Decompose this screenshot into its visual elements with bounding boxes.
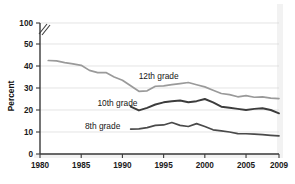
line-chart: 01020304050100 1980198519901995200020052… [0, 0, 295, 184]
y-tick-label-0: 0 [28, 150, 33, 159]
y-tick-label-10: 10 [24, 128, 34, 137]
series-label-10th-grade: 10th grade [97, 98, 137, 108]
x-tick-label-1995: 1995 [155, 161, 174, 170]
y-tick-label-100: 100 [19, 19, 33, 28]
y-axis-title: Percent [6, 80, 16, 111]
y-tick-label-40: 40 [24, 62, 34, 71]
y-tick-label-20: 20 [24, 106, 34, 115]
x-tick-label-1990: 1990 [113, 161, 132, 170]
series-label-8th-grade: 8th grade [85, 121, 121, 131]
x-tick-label-1985: 1985 [72, 161, 91, 170]
chart-figure: 01020304050100 1980198519901995200020052… [0, 0, 295, 184]
x-tick-label-2005: 2005 [237, 161, 256, 170]
x-tick-label-2000: 2000 [196, 161, 215, 170]
x-tick-label-1980: 1980 [31, 161, 50, 170]
x-tick-label-2009: 2009 [270, 161, 289, 170]
y-tick-label-50: 50 [24, 40, 34, 49]
series-label-12th-grade: 12th grade [139, 71, 179, 81]
y-tick-label-30: 30 [24, 84, 34, 93]
right-edge-shade [277, 4, 283, 156]
